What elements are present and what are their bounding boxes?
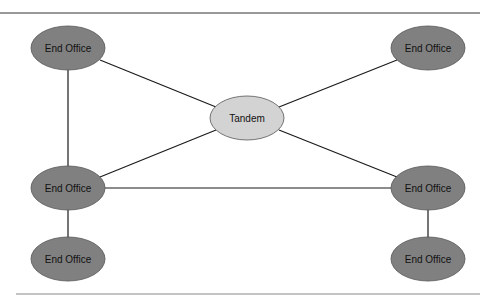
- node-eo-bottom-right: End Office: [391, 237, 465, 281]
- node-label: Tandem: [229, 113, 265, 124]
- node-label: End Office: [405, 183, 452, 194]
- edge-top-left-tandem: [100, 60, 216, 107]
- edges: [68, 60, 428, 237]
- node-label: End Office: [405, 254, 452, 265]
- node-label: End Office: [45, 43, 92, 54]
- node-eo-mid-left: End Office: [31, 166, 105, 210]
- node-label: End Office: [45, 183, 92, 194]
- edge-mid-left-tandem: [100, 130, 216, 177]
- node-eo-mid-right: End Office: [391, 166, 465, 210]
- node-tandem: Tandem: [210, 96, 284, 140]
- network-diagram: End Office End Office Tandem End Office …: [0, 0, 495, 301]
- edge-top-right-tandem: [279, 60, 397, 107]
- node-eo-bottom-left: End Office: [31, 237, 105, 281]
- node-eo-top-right: End Office: [391, 26, 465, 70]
- node-label: End Office: [405, 43, 452, 54]
- edge-mid-right-tandem: [279, 130, 397, 177]
- node-label: End Office: [45, 254, 92, 265]
- node-eo-top-left: End Office: [31, 26, 105, 70]
